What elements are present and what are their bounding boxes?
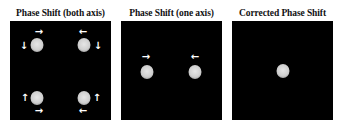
bright-spot — [31, 91, 44, 105]
bright-spot — [189, 65, 202, 79]
arrow-left-icon: ← — [79, 27, 87, 37]
arrow-left-icon: ← — [79, 106, 87, 116]
arrow-right-icon: → — [142, 52, 150, 62]
panel-title-one-axis: Phase Shift (one axis) — [121, 7, 222, 19]
panel-title-both-axis: Phase Shift (both axis) — [10, 7, 111, 19]
arrow-down-icon: ↓ — [20, 41, 28, 51]
bright-spot — [141, 65, 154, 79]
arrow-up-icon: ↑ — [93, 93, 101, 103]
arrow-up-icon: ↑ — [21, 93, 29, 103]
arrow-right-icon: → — [35, 27, 43, 37]
bright-spot — [78, 38, 91, 52]
bright-spot — [31, 38, 44, 52]
panel-one-axis: →← — [121, 21, 222, 120]
panel-title-corrected: Corrected Phase Shift — [232, 7, 333, 19]
panel-corrected — [232, 21, 333, 120]
bright-spot — [78, 91, 91, 105]
arrow-left-icon: ← — [191, 52, 199, 62]
arrow-right-icon: → — [35, 106, 43, 116]
panel-both-axis: →↓←↓↑→↑← — [10, 21, 111, 120]
arrow-down-icon: ↓ — [94, 41, 102, 51]
bright-spot — [277, 64, 290, 78]
